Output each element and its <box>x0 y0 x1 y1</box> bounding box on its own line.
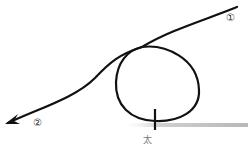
label-start: ① <box>226 13 235 23</box>
ground-line <box>120 123 248 127</box>
loop-curve <box>116 47 199 121</box>
label-bottom-mark: 太 <box>143 136 152 145</box>
label-end: ② <box>33 118 42 128</box>
